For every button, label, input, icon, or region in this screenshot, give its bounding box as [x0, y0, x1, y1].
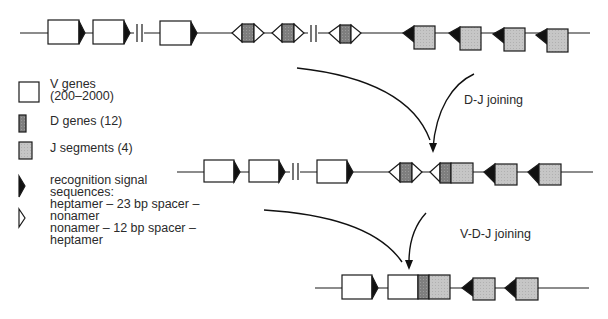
- j-segment: [429, 275, 450, 299]
- j-segment: [516, 278, 538, 300]
- d-gene: [418, 275, 429, 299]
- v-gene: [342, 275, 372, 299]
- vdj-joined-row: [315, 275, 589, 300]
- rss-23-icon: [462, 279, 473, 296]
- j-segment: [504, 28, 525, 51]
- rss-12-icon: [232, 24, 242, 42]
- black-triangle-legend-icon: [19, 176, 25, 197]
- rss-23-icon: [528, 164, 539, 184]
- j-segment: [473, 278, 495, 300]
- legend-v-genes: V genes (200–2000): [50, 78, 114, 102]
- j-segment: [539, 164, 561, 185]
- j-segment: [547, 29, 568, 52]
- legend-d-genes: D genes (12): [50, 115, 122, 127]
- rss-23-icon: [279, 161, 285, 182]
- rss-23-icon: [536, 29, 547, 44]
- legend-rss: recognition signal sequences: heptamer –…: [50, 174, 199, 246]
- d-gene-legend-icon: [19, 115, 26, 132]
- vdj-joining-arrow: [264, 210, 426, 262]
- white-triangle-legend-icon: [19, 209, 25, 227]
- j-segment: [495, 164, 517, 185]
- j-segment: [414, 26, 435, 49]
- j-segment-legend-icon: [19, 142, 32, 159]
- d-gene: [282, 24, 294, 42]
- rss-23-icon: [234, 161, 240, 182]
- legend-j-segments: J segments (4): [50, 142, 133, 154]
- legend: [19, 82, 39, 227]
- legend-v-genes-count: (200–2000): [50, 90, 114, 102]
- d-gene: [340, 25, 351, 43]
- d-gene: [242, 24, 254, 42]
- rss-23-icon: [493, 28, 504, 43]
- rss-23-icon: [505, 279, 516, 298]
- rss-12-icon: [412, 163, 422, 182]
- rss-12-icon: [351, 25, 361, 43]
- v-gene: [160, 21, 191, 45]
- d-gene: [440, 163, 451, 183]
- vdj-joining-label: V-D-J joining: [460, 228, 531, 241]
- rss-12-icon: [272, 24, 282, 42]
- v-gene: [388, 275, 418, 299]
- d-gene: [400, 163, 412, 182]
- j-segment: [451, 163, 473, 183]
- dj-joining-label: D-J joining: [464, 94, 523, 107]
- rss-12-icon: [254, 24, 264, 42]
- rss-12-icon: [430, 163, 440, 182]
- legend-rss-12-line: heptamer: [50, 234, 199, 246]
- v-gene: [317, 160, 347, 183]
- rss-23-icon: [372, 276, 378, 299]
- j-segment: [460, 27, 481, 50]
- rss-23-icon: [347, 161, 353, 183]
- rss-23-icon: [191, 22, 197, 45]
- rss-23-icon: [449, 27, 460, 43]
- v-gene: [249, 160, 279, 182]
- v-gene: [204, 160, 234, 182]
- recombination-diagram: [0, 0, 608, 319]
- rss-23-icon: [484, 164, 495, 183]
- legend-d-genes-line: D genes (12): [50, 115, 122, 127]
- dj-joined-row: [177, 160, 593, 185]
- rss-23-icon: [79, 21, 85, 44]
- arrowhead-icon: [405, 260, 413, 270]
- v-gene-legend-icon: [19, 82, 39, 102]
- rss-23-icon: [403, 26, 414, 42]
- rss-12-icon: [294, 24, 304, 42]
- germline-row: [20, 20, 590, 52]
- legend-j-segments-line: J segments (4): [50, 142, 133, 154]
- v-gene: [48, 20, 79, 44]
- rss-12-icon: [329, 25, 340, 43]
- dj-joining-arrow: [297, 68, 474, 148]
- rss-12-icon: [389, 163, 400, 182]
- rss-23-icon: [124, 21, 130, 44]
- v-gene: [93, 20, 124, 44]
- arrowhead-icon: [429, 143, 437, 153]
